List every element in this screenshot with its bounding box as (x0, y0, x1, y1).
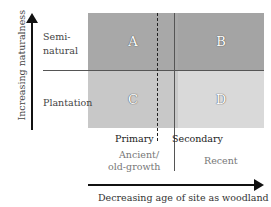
x-axis-arrow (88, 184, 254, 186)
row-label-seminatural-line2: natural (43, 44, 78, 58)
column-label-recent: Recent (204, 154, 238, 168)
column-divider-dashed-line (157, 13, 158, 141)
x-axis-arrowhead-icon (254, 179, 264, 191)
cell-label-c: C (88, 70, 178, 128)
column-label-ancient-line2: old-growth (108, 160, 160, 174)
row-label-plantation: Plantation (43, 96, 92, 110)
x-axis-label: Decreasing age of site as woodland (98, 191, 269, 205)
column-label-secondary: Secondary (172, 132, 223, 146)
y-axis-label: Increasing naturalness (16, 11, 27, 121)
column-divider-solid-line (174, 13, 175, 171)
cell-label-b: B (178, 13, 264, 70)
cell-label-a: A (88, 13, 178, 70)
y-axis-arrowhead-icon (26, 13, 38, 23)
row-divider-line (43, 70, 264, 71)
y-axis-arrow (31, 22, 33, 130)
row-label-seminatural-line1: Semi- (43, 30, 70, 44)
column-label-primary: Primary (115, 132, 154, 146)
cell-label-d: D (178, 70, 264, 128)
